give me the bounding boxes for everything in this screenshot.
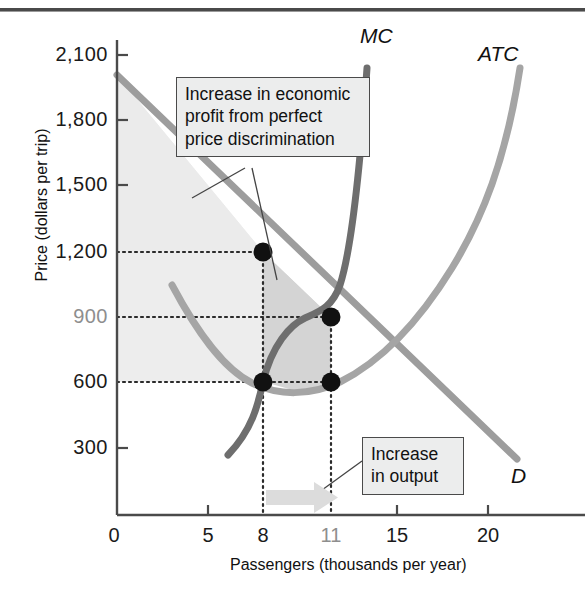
demand-curve-label: D	[511, 464, 526, 488]
y-tick-label-1800: 1,800	[14, 108, 108, 131]
leader-line-output	[322, 461, 362, 490]
marker-point[interactable]	[254, 373, 273, 392]
y-tick-label-1200: 1,200	[14, 240, 108, 263]
marker-point[interactable]	[322, 373, 341, 392]
mc-curve-label: MC	[360, 24, 393, 48]
marker-point[interactable]	[322, 308, 341, 327]
atc-curve-label: ATC	[478, 42, 518, 66]
y-tick-label-600: 600	[14, 370, 108, 393]
y-tick-label-900: 900	[14, 305, 108, 328]
x-axis-title: Passengers (thousands per year)	[230, 556, 467, 574]
x-tick-label-8: 8	[241, 524, 285, 547]
x-tick-label-15: 15	[375, 524, 419, 547]
y-tick-label-300: 300	[14, 436, 108, 459]
profit-callout: Increase in economic profit from perfect…	[176, 77, 370, 157]
y-tick-label-2100: 2,100	[14, 43, 108, 66]
chart-figure: 2,100 1,800 1,500 1,200 900 600 300 0 5 …	[0, 0, 585, 594]
x-tick-label-11: 11	[309, 524, 353, 547]
x-tick-label-0: 0	[92, 524, 136, 547]
x-tick-label-5: 5	[186, 524, 230, 547]
output-callout: Increase in output	[362, 437, 464, 495]
x-tick-label-20: 20	[466, 524, 510, 547]
y-tick-label-1500: 1,500	[14, 173, 108, 196]
y-axis-title: Price (dollars per trip)	[33, 85, 51, 325]
